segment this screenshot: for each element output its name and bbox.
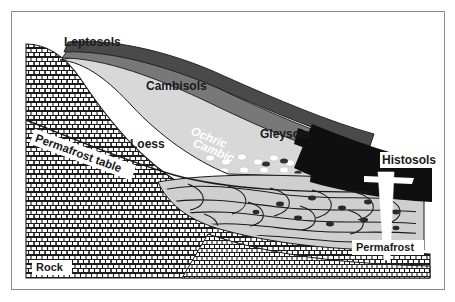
figure-frame: Permafrost table Rock Permafrost Leptoso…	[11, 11, 445, 290]
cambisols-label: Cambisols	[146, 79, 207, 93]
histosols-label-group: Histosols	[380, 152, 442, 168]
cross-section-svg: Permafrost table Rock Permafrost Leptoso…	[12, 12, 444, 289]
leptosols-label: Leptosols	[64, 35, 121, 49]
histosols-label: Histosols	[382, 153, 436, 167]
rock-label-group: Rock	[32, 260, 72, 275]
rock-label: Rock	[36, 261, 64, 273]
permafrost-label: Permafrost	[356, 241, 414, 253]
gleysols-label: Gleysols	[260, 127, 310, 141]
permafrost-label-group: Permafrost	[352, 240, 424, 255]
figure-canvas: Permafrost table Rock Permafrost Leptoso…	[0, 0, 455, 302]
loess-label: Loess	[130, 137, 165, 151]
